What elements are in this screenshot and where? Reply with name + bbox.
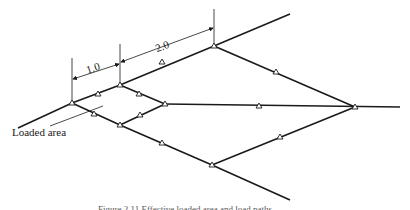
load-path-diagram: 1.0 2.0 Loaded area Figure 2 <box>0 0 410 210</box>
dimension-label-1: 1.0 <box>84 60 101 76</box>
figure-caption: Figure 2.11 Effective loaded area and lo… <box>98 204 272 210</box>
loaded-area-label: Loaded area <box>12 126 66 138</box>
load-paths <box>18 14 400 200</box>
triangle-icon <box>159 59 165 64</box>
dimension-label-2: 2.0 <box>154 38 171 54</box>
